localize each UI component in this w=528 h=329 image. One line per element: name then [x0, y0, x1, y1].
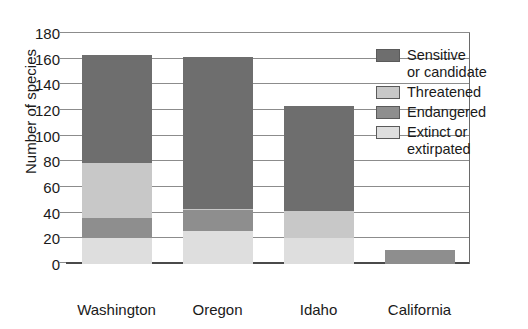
y-tick-mark-120: [59, 109, 66, 110]
x-tick-label-idaho: Idaho: [300, 301, 338, 318]
extinct-swatch: [376, 126, 400, 139]
legend-label-3: Extinct or extirpated: [407, 124, 471, 158]
legend-label-2: Endangered: [407, 104, 486, 121]
y-tick-mark-40: [59, 212, 66, 213]
y-tick-mark-160: [59, 58, 66, 59]
y-tick-mark-140: [59, 83, 66, 84]
y-tick-label-100: 100: [14, 128, 60, 143]
plot-area: Sensitive or candidateThreatenedEndanger…: [66, 33, 470, 264]
bar-segment-idaho-sensitive: [284, 106, 354, 211]
y-tick-mark-0: [59, 262, 66, 263]
bar-segment-california-endangered: [385, 250, 455, 264]
sensitive-swatch: [376, 49, 400, 62]
bar-segment-washington-threatened: [82, 163, 152, 218]
legend-item-2: Endangered: [376, 104, 506, 121]
y-axis-tick-labels: 020406080100120140160180: [14, 0, 60, 329]
legend-label-1: Threatened: [407, 84, 481, 101]
x-tick-label-washington: Washington: [77, 301, 156, 318]
x-tick-label-oregon: Oregon: [192, 301, 242, 318]
y-tick-label-180: 180: [14, 26, 60, 41]
bar-segment-oregon-endangered: [183, 210, 253, 231]
legend-item-1: Threatened: [376, 84, 506, 101]
legend-item-0: Sensitive or candidate: [376, 47, 506, 81]
y-tick-label-60: 60: [14, 180, 60, 195]
bar-idaho: [284, 106, 354, 264]
bar-segment-oregon-sensitive: [183, 57, 253, 208]
y-tick-mark-60: [59, 186, 66, 187]
y-tick-mark-80: [59, 160, 66, 161]
y-tick-label-0: 0: [14, 257, 60, 272]
legend-label-0: Sensitive or candidate: [407, 47, 487, 81]
bar-washington: [82, 55, 152, 264]
bar-segment-idaho-threatened: [284, 211, 354, 238]
y-tick-mark-20: [59, 237, 66, 238]
y-tick-label-20: 20: [14, 231, 60, 246]
endangered-swatch: [376, 106, 400, 119]
bar-segment-washington-extinct: [82, 238, 152, 264]
y-tick-label-80: 80: [14, 154, 60, 169]
gridline-180: [66, 32, 470, 33]
bar-california: [385, 250, 455, 264]
chart-legend: Sensitive or candidateThreatenedEndanger…: [376, 47, 506, 161]
stacked-bar-chart: Number of species 0204060801001201401601…: [0, 0, 528, 329]
y-tick-label-120: 120: [14, 103, 60, 118]
bar-segment-washington-sensitive: [82, 55, 152, 163]
legend-item-3: Extinct or extirpated: [376, 124, 506, 158]
y-tick-mark-180: [59, 32, 66, 33]
y-tick-label-160: 160: [14, 51, 60, 66]
bar-segment-washington-endangered: [82, 218, 152, 239]
x-tick-label-california: California: [388, 301, 451, 318]
bar-oregon: [183, 57, 253, 264]
bar-segment-oregon-extinct: [183, 231, 253, 264]
y-tick-mark-100: [59, 135, 66, 136]
bar-segment-idaho-extinct: [284, 238, 354, 264]
y-tick-label-140: 140: [14, 77, 60, 92]
y-tick-label-40: 40: [14, 205, 60, 220]
threatened-swatch: [376, 86, 400, 99]
